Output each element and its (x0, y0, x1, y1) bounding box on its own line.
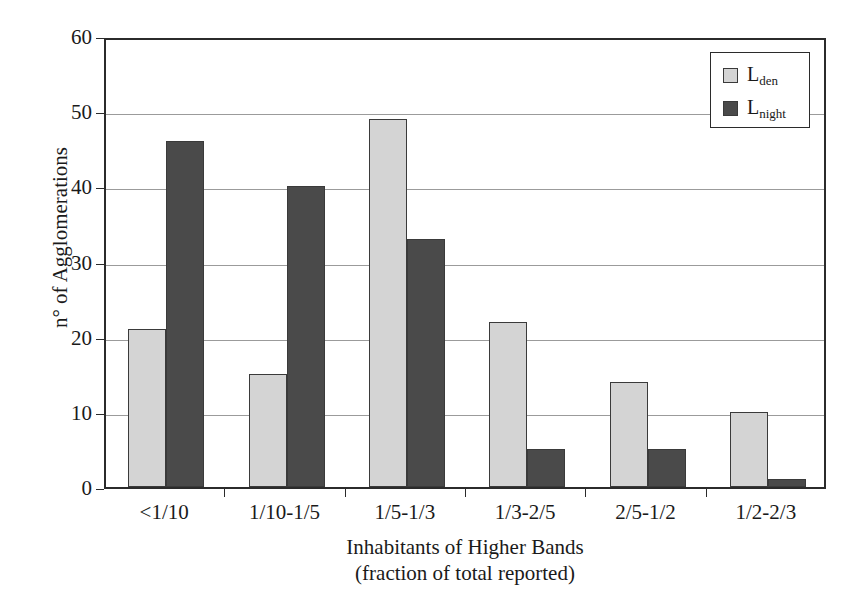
y-axis-tick-label: 20 (48, 328, 92, 349)
x-axis-title-line1: Inhabitants of Higher Bands (104, 534, 826, 560)
bar (407, 239, 445, 487)
y-axis-tick-mark (96, 188, 104, 189)
y-axis-tick-label: 0 (48, 478, 92, 499)
x-axis-tick-mark (585, 489, 586, 497)
y-axis-tick-label: 30 (48, 253, 92, 274)
bar (166, 141, 204, 487)
y-axis-tick-labels: 0102030405060 (40, 38, 92, 489)
gridline (106, 340, 824, 341)
bar (527, 449, 565, 487)
bar (249, 374, 287, 487)
bar (648, 449, 686, 487)
x-axis-title: Inhabitants of Higher Bands (fraction of… (104, 534, 826, 586)
x-axis-title-line2: (fraction of total reported) (104, 560, 826, 586)
legend-item: Lden (723, 63, 778, 87)
x-axis-tick-mark (345, 489, 346, 497)
y-axis-tick-mark (96, 113, 104, 114)
x-axis-tick-label: <1/10 (104, 500, 224, 525)
bar (768, 479, 806, 487)
bar (489, 322, 527, 487)
gridline (106, 189, 824, 190)
y-axis-tick-mark (96, 264, 104, 265)
y-axis-tick-label: 40 (48, 177, 92, 198)
legend-swatch (723, 68, 738, 83)
bar-chart-figure: n° of Agglomerations 0102030405060 <1/10… (0, 0, 865, 609)
bar (287, 186, 325, 487)
bar (369, 119, 407, 487)
y-axis-tick-label: 50 (48, 102, 92, 123)
y-axis-tick-mark (96, 38, 104, 39)
legend-item: Lnight (723, 96, 786, 120)
x-axis-tick-label: 1/3-2/5 (465, 500, 585, 525)
legend-label: Lnight (747, 97, 786, 120)
x-axis-tick-mark (224, 489, 225, 497)
x-axis-tick-mark (465, 489, 466, 497)
gridline (106, 415, 824, 416)
x-axis-tick-label: 1/10-1/5 (224, 500, 344, 525)
y-axis-tick-label: 60 (48, 27, 92, 48)
x-axis-tick-label: 1/5-1/3 (345, 500, 465, 525)
legend-swatch (723, 101, 738, 116)
x-axis-tick-label: 1/2-2/3 (706, 500, 826, 525)
bar (610, 382, 648, 487)
x-axis-tick-label: 2/5-1/2 (585, 500, 705, 525)
x-axis-tick-mark (706, 489, 707, 497)
gridline (106, 265, 824, 266)
y-axis-tick-mark (96, 339, 104, 340)
y-axis-tick-mark (96, 489, 104, 490)
bar (730, 412, 768, 487)
legend: LdenLnight (710, 52, 810, 128)
legend-label: Lden (747, 64, 778, 87)
bar (128, 329, 166, 487)
y-axis-tick-label: 10 (48, 403, 92, 424)
y-axis-tick-mark (96, 414, 104, 415)
